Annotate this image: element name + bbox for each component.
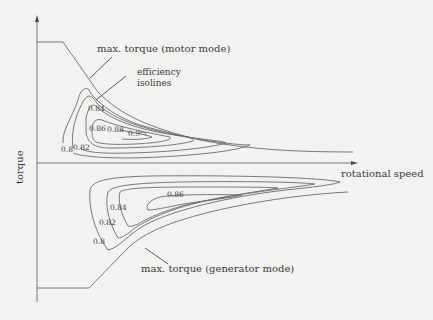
motor-limit-pointer [90,57,112,78]
gen-label-0.82: 0.82 [99,218,116,227]
motor-limit-label: max. torque (motor mode) [97,43,230,54]
x-axis-arrow-icon [351,161,358,165]
isolines-label-line2: isolines [137,78,172,88]
gen-label-0.8: 0.8 [93,237,105,246]
gen-label-0.84: 0.84 [110,203,127,212]
efficiency-map-diagram: 0.8 0.82 0.84 0.86 0.88 0.9 0.8 0.82 0.8… [0,0,433,320]
generator-limit-label: max. torque (generator mode) [141,263,294,274]
label-0.82: 0.82 [73,143,90,152]
isolines-pointer [96,76,126,100]
label-0.84: 0.84 [88,104,105,113]
y-axis-label: torque [14,150,25,184]
generator-limit-pointer [145,248,168,264]
generator-isolines [90,176,340,250]
axes [35,15,358,302]
y-axis-arrow-icon [35,15,39,22]
label-0.88: 0.88 [107,125,124,134]
label-0.86: 0.86 [89,124,106,133]
label-0.8: 0.8 [61,145,73,154]
x-axis-label: rotational speed [341,168,424,179]
isolines-label-line1: efficiency [137,67,182,77]
gen-label-0.86: 0.86 [167,190,184,199]
motor-max-torque-curve [37,42,353,152]
label-0.9: 0.9 [128,129,140,138]
